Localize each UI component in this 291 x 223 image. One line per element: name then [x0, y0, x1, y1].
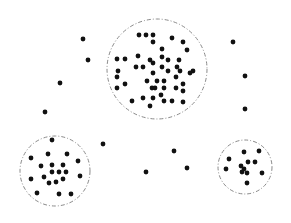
cluster-point: [162, 86, 167, 91]
cluster-point: [181, 82, 186, 87]
noise-points-group: [43, 37, 248, 175]
cluster-point: [160, 55, 165, 60]
cluster-point: [151, 71, 156, 76]
cluster-point: [65, 152, 70, 157]
cluster-point: [39, 164, 44, 169]
noise-point: [58, 81, 63, 86]
cluster-point: [227, 157, 232, 162]
noise-point: [101, 142, 106, 147]
cluster-point: [151, 61, 156, 66]
cluster-point: [115, 57, 120, 62]
cluster-point: [166, 69, 171, 74]
cluster-point: [162, 99, 167, 104]
cluster-point: [260, 171, 265, 176]
cluster-point: [174, 75, 179, 80]
cluster-point: [151, 33, 156, 38]
cluster-point: [242, 150, 247, 155]
cluster-point: [253, 160, 258, 165]
large-top-cluster: [107, 19, 207, 119]
cluster-point: [170, 99, 175, 104]
noise-point: [144, 170, 149, 175]
cluster-point: [160, 65, 165, 70]
cluster-point: [177, 58, 182, 63]
noise-point: [81, 37, 86, 42]
cluster-point: [50, 163, 55, 168]
cluster-point: [145, 79, 150, 84]
clustering-diagram: [0, 0, 291, 223]
cluster-point: [144, 33, 149, 38]
cluster-point: [170, 36, 175, 41]
cluster-point: [160, 47, 165, 52]
cluster-point: [174, 86, 179, 91]
cluster-point: [50, 170, 55, 175]
cluster-point: [181, 40, 186, 45]
cluster-point: [42, 175, 47, 180]
cluster-point: [178, 69, 183, 74]
cluster-point: [76, 159, 81, 164]
cluster-point: [35, 191, 40, 196]
cluster-point: [57, 192, 62, 197]
cluster-point: [123, 82, 128, 87]
cluster-point: [64, 170, 69, 175]
cluster-point: [116, 69, 121, 74]
lower-right-cluster: [218, 140, 272, 194]
cluster-point: [181, 89, 186, 94]
cluster-point: [57, 170, 62, 175]
cluster-point: [78, 174, 83, 179]
cluster-point: [151, 96, 156, 101]
cluster-point: [29, 177, 34, 182]
cluster-point: [188, 71, 193, 76]
lower-left-cluster: [20, 136, 90, 206]
cluster-boundary-circle: [20, 136, 90, 206]
cluster-point: [47, 181, 52, 186]
cluster-point: [155, 79, 160, 84]
noise-point: [86, 58, 91, 63]
cluster-point: [54, 180, 59, 185]
cluster-point: [137, 33, 142, 38]
cluster-point: [141, 96, 146, 101]
cluster-point: [130, 99, 135, 104]
cluster-point: [159, 93, 164, 98]
cluster-point: [166, 58, 171, 63]
cluster-point: [245, 181, 250, 186]
cluster-point: [153, 86, 158, 91]
cluster-point: [162, 79, 167, 84]
cluster-point: [141, 65, 146, 70]
noise-point: [185, 166, 190, 171]
noise-point: [172, 149, 177, 154]
cluster-point: [69, 192, 74, 197]
cluster-point: [185, 48, 190, 53]
cluster-point: [50, 138, 55, 143]
cluster-point: [61, 177, 66, 182]
noise-point: [231, 40, 236, 45]
noise-point: [243, 74, 248, 79]
cluster-point: [257, 149, 262, 154]
cluster-point: [148, 104, 153, 109]
cluster-point: [115, 86, 120, 91]
cluster-point: [240, 170, 245, 175]
cluster-point: [246, 160, 251, 165]
cluster-point: [245, 171, 250, 176]
cluster-point: [61, 163, 66, 168]
cluster-point: [46, 152, 51, 157]
cluster-point: [123, 57, 128, 62]
cluster-point: [181, 100, 186, 105]
cluster-point: [29, 156, 34, 161]
noise-point: [243, 107, 248, 112]
cluster-point: [115, 75, 120, 80]
cluster-point: [175, 65, 180, 70]
clusters-group: [20, 19, 272, 206]
cluster-point: [151, 40, 156, 45]
noise-point: [43, 110, 48, 115]
cluster-point: [136, 54, 141, 59]
cluster-point: [134, 65, 139, 70]
cluster-point: [224, 167, 229, 172]
